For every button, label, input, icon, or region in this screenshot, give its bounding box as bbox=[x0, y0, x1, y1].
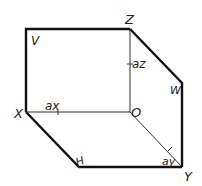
label-ay: ay bbox=[162, 155, 176, 168]
h-plane-outline bbox=[26, 112, 182, 167]
label-x: X bbox=[13, 106, 24, 121]
label-y: Y bbox=[184, 169, 193, 184]
label-h: H bbox=[74, 154, 86, 169]
ay-tick bbox=[168, 147, 172, 151]
label-az: az bbox=[132, 57, 146, 71]
w-plane-outline bbox=[130, 29, 182, 167]
label-ax: ax bbox=[45, 99, 60, 113]
v-plane-outline bbox=[26, 29, 130, 112]
label-w: W bbox=[170, 84, 182, 97]
label-v: V bbox=[31, 34, 40, 48]
label-z: Z bbox=[124, 12, 135, 27]
label-o: O bbox=[131, 105, 141, 120]
projection-diagram: Z V az W X ax O H ay Y bbox=[0, 0, 202, 186]
